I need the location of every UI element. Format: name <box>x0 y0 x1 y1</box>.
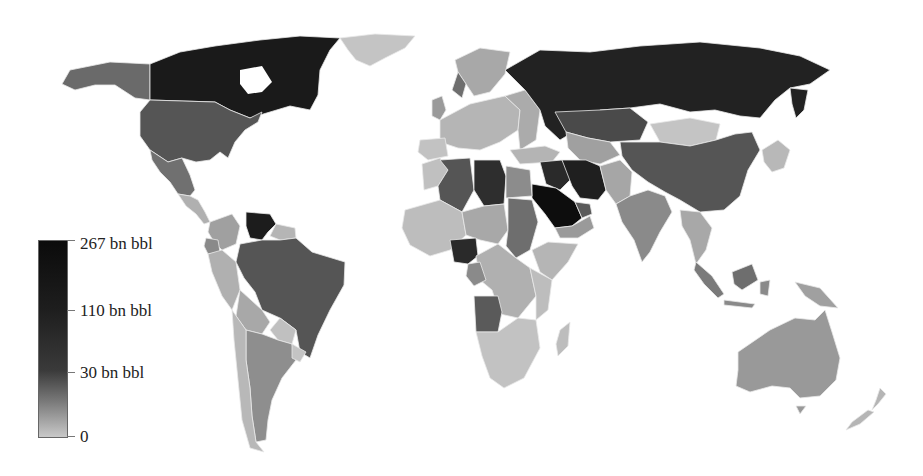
legend-tick-zero <box>67 436 75 437</box>
region-malaysia-borneo <box>732 264 758 290</box>
region-saudi-arabia <box>532 184 582 228</box>
region-new-guinea <box>795 282 838 308</box>
region-uk <box>432 96 446 120</box>
region-nigeria <box>450 238 478 264</box>
region-egypt <box>506 166 532 198</box>
region-sulawesi <box>760 280 770 296</box>
color-scale-legend: 267 bn bbl 110 bn bbl 30 bn bbl 0 <box>38 240 238 440</box>
region-sumatra <box>694 262 724 298</box>
region-libya <box>474 160 506 206</box>
region-iberia <box>418 138 448 160</box>
region-alaska <box>62 62 150 100</box>
legend-tick-30 <box>67 372 75 373</box>
region-tasmania <box>796 406 806 414</box>
region-kamchatka <box>790 88 808 118</box>
legend-label-110: 110 bn bbl <box>80 302 152 319</box>
region-southeast-asia <box>680 210 712 264</box>
region-angola <box>474 296 502 332</box>
region-new-zealand <box>846 388 886 430</box>
region-central-america <box>178 194 210 224</box>
legend-tick-max <box>67 240 75 241</box>
legend-tick-110 <box>67 310 75 311</box>
region-india <box>616 190 672 262</box>
region-niger-chad <box>462 204 508 244</box>
legend-label-max: 267 bn bbl <box>80 235 153 252</box>
legend-label-30: 30 bn bbl <box>80 364 144 381</box>
region-western-europe <box>440 96 520 150</box>
region-greenland <box>340 34 415 66</box>
region-korea-japan <box>762 140 790 172</box>
region-java <box>724 300 755 308</box>
region-australia <box>736 310 840 398</box>
legend-label-zero: 0 <box>80 428 89 445</box>
region-madagascar <box>556 322 570 356</box>
legend-gradient-bar <box>38 240 68 438</box>
